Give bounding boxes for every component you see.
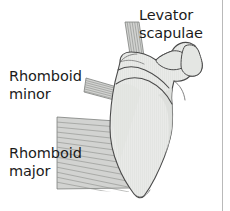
label-levator-scapulae: Levator scapulae	[139, 7, 203, 42]
label-rhomboid-major: Rhomboid major	[9, 145, 82, 180]
anatomy-figure: Levator scapulae Rhomboid minor Rhomboid…	[0, 0, 230, 211]
glenoid-contour	[174, 81, 185, 100]
coracoid-process	[181, 45, 202, 76]
scapula-bone	[110, 42, 202, 197]
label-rhomboid-minor: Rhomboid minor	[9, 68, 82, 103]
figure-frame-border	[222, 0, 223, 211]
